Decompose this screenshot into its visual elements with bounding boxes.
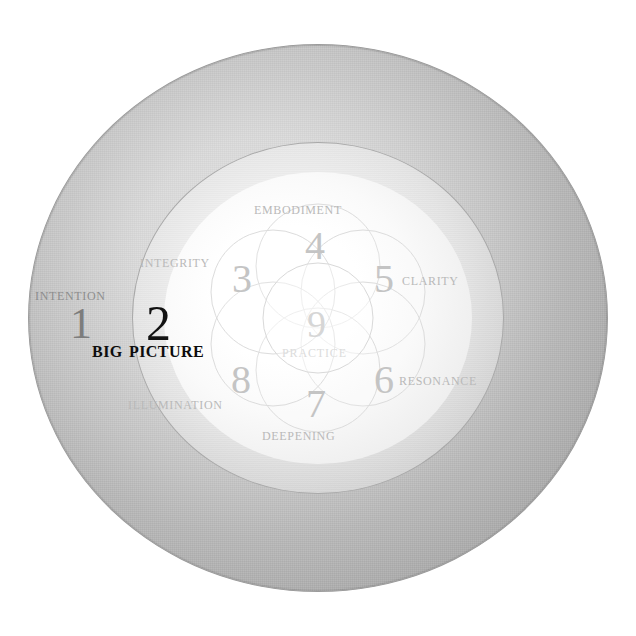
stage-number-7: 7 <box>306 384 326 424</box>
stage-label-deepening: Deepening <box>262 427 335 444</box>
mandala-diagram: Intention 1 2 Big Picture Integrity 3 Em… <box>0 0 636 636</box>
stage-number-3: 3 <box>232 259 252 299</box>
stage-number-4: 4 <box>305 226 325 266</box>
stage-label-illumination: Illumination <box>128 396 223 413</box>
stage-number-6: 6 <box>374 360 394 400</box>
stage-label-embodiment: Embodiment <box>254 201 342 218</box>
stage-label-big-picture: Big Picture <box>92 338 204 361</box>
stage-number-8: 8 <box>231 360 251 400</box>
stage-label-integrity: Integrity <box>140 254 210 271</box>
stage-label-practice: Practice <box>282 343 347 360</box>
stage-label-resonance: Resonance <box>399 372 477 389</box>
stage-number-5: 5 <box>374 259 394 299</box>
stage-label-clarity: Clarity <box>402 272 459 289</box>
stage-number-9: 9 <box>307 305 326 343</box>
stage-number-1: 1 <box>70 302 92 346</box>
